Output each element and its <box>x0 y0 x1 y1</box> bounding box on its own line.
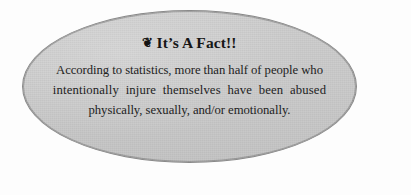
clover-bullet-icon: ❦ <box>142 35 153 50</box>
fact-body: According to statistics, more than half … <box>30 60 349 120</box>
fact-title-text: It’s A Fact!! <box>157 34 237 51</box>
fact-title: ❦It’s A Fact!! <box>30 33 349 53</box>
fact-body-line-2: intentionally injure themselves have bee… <box>30 80 349 100</box>
fact-body-line-1: According to statistics, more than half … <box>30 60 349 80</box>
fact-body-line-3: physically, sexually, and/or emotionally… <box>30 100 349 120</box>
fact-content: ❦It’s A Fact!! According to statistics, … <box>30 33 349 120</box>
fact-callout-page: ❦It’s A Fact!! According to statistics, … <box>0 0 411 195</box>
